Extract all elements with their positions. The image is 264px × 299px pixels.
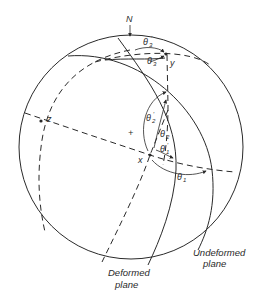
theta1-label: θ 1	[177, 172, 186, 183]
theta3-prime-label: θ 3 ′	[143, 35, 153, 48]
theta2-arrow	[154, 100, 166, 148]
svg-text:θ: θ	[177, 172, 182, 182]
svg-text:θ: θ	[160, 144, 165, 154]
dashed-great-circle-xz	[25, 113, 235, 172]
deformed-plane-caption: Deformed plane	[108, 267, 150, 290]
undeformed-plane-caption: Undeformed plane	[193, 247, 246, 269]
svg-text:Undeformed: Undeformed	[193, 247, 246, 258]
svg-text:3: 3	[153, 61, 157, 67]
svg-text:1: 1	[166, 149, 169, 155]
label-y: y	[169, 58, 175, 68]
svg-text:′: ′	[153, 111, 155, 117]
dashed-great-circle-x	[102, 110, 168, 262]
theta2-label: θ 2	[160, 129, 170, 140]
point-y-marker	[164, 52, 167, 55]
svg-text:′: ′	[167, 142, 169, 148]
svg-text:2: 2	[151, 118, 156, 124]
stereonet-diagram: N + x y z θ 3 ′ θ 3 θ 2 ′	[0, 0, 264, 299]
label-x: x	[137, 155, 143, 165]
svg-text:′: ′	[151, 35, 153, 41]
svg-text:θ: θ	[160, 129, 165, 139]
primitive-circle	[19, 35, 243, 259]
point-z-marker	[39, 119, 42, 122]
theta1-prime-label: θ 1 ′	[160, 142, 169, 155]
svg-text:3: 3	[149, 42, 153, 48]
svg-text:plane: plane	[202, 258, 226, 269]
svg-text:θ: θ	[143, 37, 148, 47]
point-x-marker	[148, 153, 151, 156]
theta2-prime-label: θ 2 ′	[146, 111, 156, 124]
dashed-great-circle-z	[39, 50, 130, 232]
svg-text:2: 2	[165, 134, 170, 140]
svg-text:θ: θ	[147, 56, 152, 66]
undeformed-plane-great-circle	[68, 56, 213, 250]
svg-text:θ: θ	[146, 113, 151, 123]
svg-text:plane: plane	[114, 279, 138, 290]
north-label: N	[126, 14, 133, 24]
center-mark: +	[128, 128, 133, 138]
theta3-prime-arrow	[135, 48, 164, 52]
svg-text:Deformed: Deformed	[108, 267, 150, 278]
label-z: z	[46, 114, 52, 124]
svg-text:1: 1	[183, 177, 186, 183]
